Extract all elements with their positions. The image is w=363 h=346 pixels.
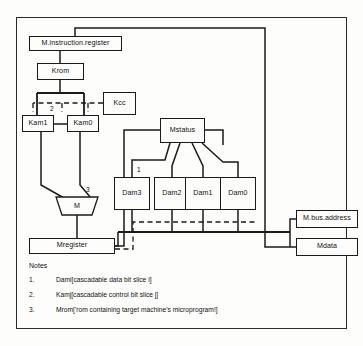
tag-2: 2 (50, 105, 54, 112)
wire-mstatus-dam2 (172, 143, 180, 177)
block-label: Kam1 (29, 120, 48, 127)
block-label: Krom (52, 68, 69, 75)
block-dam0[interactable]: Dam0 (220, 177, 256, 210)
tag-3: 3 (86, 186, 90, 193)
block-kcc[interactable]: Kcc (103, 92, 136, 115)
notes-section: Notes 1. Dami[cascadable data bit slice … (29, 262, 329, 321)
wire-bus-left-drop (115, 232, 118, 246)
block-label: Kcc (113, 100, 125, 107)
wire-mstatus-dam0 (202, 143, 238, 177)
block-m-instruction-register[interactable]: M.instruction.register (29, 36, 122, 51)
tag-label: 2 (50, 105, 54, 112)
block-label: Mstatus (170, 127, 196, 134)
block-label: Dam0 (228, 190, 247, 197)
wire-mregister-dam-dashed (115, 222, 255, 249)
wire-kam1-m (41, 132, 64, 198)
note-text: Kamj[cascadable control bit slice j] (56, 291, 329, 298)
note-text: Dami[cascadable data bit slice i] (56, 276, 329, 283)
block-mdata[interactable]: Mdata (296, 238, 358, 256)
note-number: 2. (29, 291, 56, 298)
tag-label: 1 (137, 166, 141, 173)
note-item: 2. Kamj[cascadable control bit slice j] (29, 291, 329, 298)
note-number: 3. (29, 306, 56, 313)
tag-1: 1 (137, 166, 141, 173)
wire-bus-mdata (265, 233, 296, 247)
block-label: Kam0 (74, 120, 93, 127)
block-dam3[interactable]: Dam3 (114, 177, 150, 210)
wire-mstatus-right (205, 130, 223, 145)
block-label: Dam3 (122, 190, 141, 197)
block-mregister[interactable]: Mregister (29, 238, 115, 254)
block-label: M.instruction.register (41, 40, 109, 47)
block-m-bus-address[interactable]: M.bus.address (296, 210, 358, 228)
notes-heading: Notes (29, 262, 329, 269)
block-label: Mdata (317, 243, 337, 250)
block-label: Mregister (57, 242, 87, 249)
block-m-label-wrap: M (55, 196, 99, 216)
diagram-canvas: M.instruction.register Krom Kcc Kam1 Kam… (0, 0, 363, 346)
note-item: 3. Mrom['rom containing target machine's… (29, 306, 329, 313)
block-label: M (74, 202, 80, 210)
block-label: Dam1 (193, 190, 212, 197)
block-krom[interactable]: Krom (37, 63, 84, 80)
block-dam1[interactable]: Dam1 (185, 177, 221, 210)
note-item: 1. Dami[cascadable data bit slice i] (29, 276, 329, 283)
block-kam0[interactable]: Kam0 (67, 115, 99, 132)
block-mstatus[interactable]: Mstatus (160, 118, 205, 143)
block-label: Dam2 (162, 190, 181, 197)
note-number: 1. (29, 276, 56, 283)
tag-label: 3 (86, 186, 90, 193)
block-kam1[interactable]: Kam1 (22, 115, 54, 132)
block-label: M.bus.address (303, 215, 351, 222)
wire-mstatus-dam1 (192, 143, 203, 177)
note-text: Mrom['rom containing target machine's mi… (56, 306, 329, 313)
